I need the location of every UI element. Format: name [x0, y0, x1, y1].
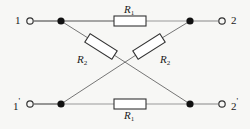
terminal-label-1-prime-mark: '	[19, 96, 21, 106]
terminal-label-1: 1	[15, 15, 21, 26]
junction-node-top-right	[186, 17, 193, 24]
resistor-r2-left-body	[85, 34, 117, 60]
terminal-label-2-prime-mark: '	[237, 96, 239, 106]
resistor-label-r2-right: R2	[160, 54, 170, 65]
terminal-post-1	[27, 18, 33, 24]
resistor-label-r2-left: R2	[77, 54, 87, 65]
terminal-post-2-prime	[219, 101, 225, 107]
resistor-r1-bottom-body	[114, 99, 146, 109]
resistor-label-r1-bottom-sub: 1	[131, 115, 135, 123]
resistor-label-r2-left-sub: 2	[84, 59, 88, 67]
terminal-label-2-prime: 2'	[231, 98, 238, 112]
resistor-label-r1-top: R1	[124, 4, 134, 15]
wire-node-tl-to-r2-left	[61, 21, 88, 38]
junction-node-bottom-right	[186, 100, 193, 107]
terminal-post-2	[219, 18, 225, 24]
resistor-label-r2-right-sub: 2	[167, 59, 171, 67]
resistor-label-r1-bottom: R1	[124, 110, 134, 121]
resistor-label-r1-bottom-base: R	[124, 109, 131, 121]
resistor-label-r2-left-base: R	[77, 53, 84, 65]
terminal-label-1-prime: 1'	[13, 98, 20, 112]
junction-node-bottom-left	[57, 100, 64, 107]
circuit-diagram-figure: 1 2 1' 2' R1 R1 R2 R2	[0, 0, 250, 129]
resistor-label-r2-right-base: R	[160, 53, 167, 65]
terminal-post-1-prime	[27, 101, 33, 107]
terminal-label-2: 2	[231, 15, 237, 26]
terminal-label-1-prime-base: 1	[13, 100, 19, 112]
resistor-label-r1-top-sub: 1	[131, 9, 135, 17]
junction-node-top-left	[57, 17, 64, 24]
wire-node-bl-to-r2-right	[61, 55, 136, 104]
resistor-r1-top-body	[114, 16, 146, 26]
wire-r2-right-to-node-tr	[162, 21, 190, 38]
resistor-label-r1-top-base: R	[124, 3, 131, 15]
terminal-label-2-prime-base: 2	[231, 100, 237, 112]
